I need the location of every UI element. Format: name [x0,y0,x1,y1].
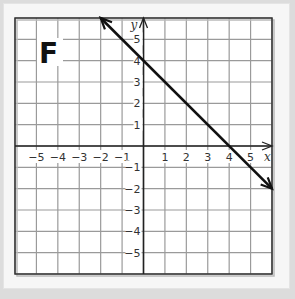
y-tick-label: −2 [124,183,140,196]
x-tick-label: 3 [204,151,211,164]
x-tick-label: 1 [161,151,168,164]
x-tick-label: 5 [247,151,254,164]
y-tick-label: 2 [134,97,141,110]
x-tick-label: 2 [183,151,190,164]
y-tick-label: 5 [134,33,141,46]
x-axis-label: x [264,150,271,164]
y-axis-label: y [130,18,138,32]
x-tick-label: −4 [50,151,66,164]
y-tick-label: −3 [124,204,140,217]
x-tick-label: −3 [71,151,87,164]
y-tick-label: −5 [124,247,140,260]
x-tick-label: −2 [93,151,109,164]
y-tick-label: −1 [124,161,140,174]
panel-label: F [39,37,58,70]
x-tick-label: 4 [226,151,233,164]
y-tick-label: −4 [124,225,140,238]
x-tick-label: −5 [28,151,44,164]
y-tick-label: 3 [134,76,141,89]
coordinate-plane: F−5−4−3−2−11234554321−1−2−3−4−5xy [0,0,295,299]
y-tick-label: 1 [134,119,141,132]
